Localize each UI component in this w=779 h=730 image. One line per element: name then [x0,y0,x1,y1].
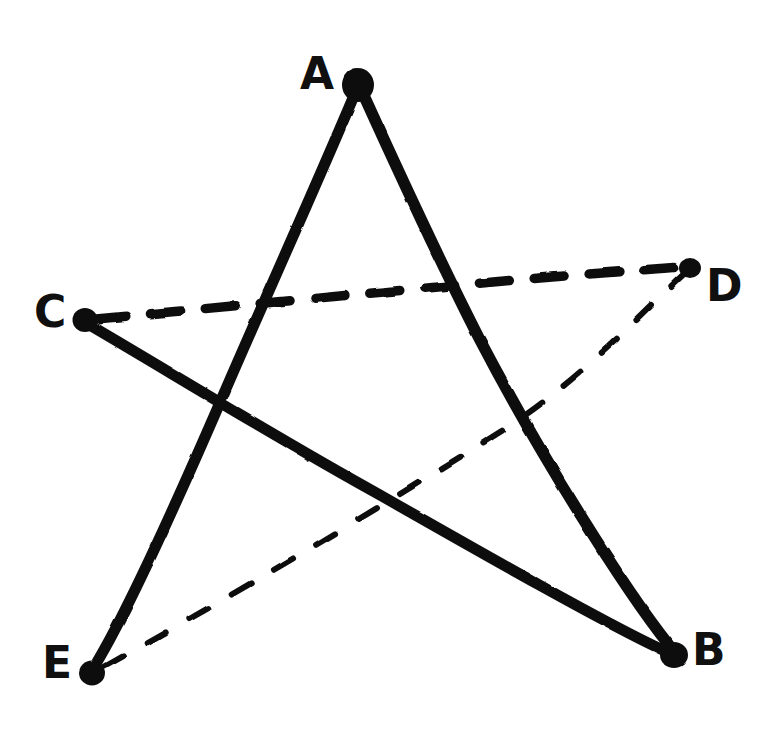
edge-group-dashed [96,267,684,667]
vertex-dot-C[interactable] [73,308,98,332]
diagram-canvas: A B C D E [0,0,779,730]
vertex-label-D: D [706,264,743,308]
vertex-label-C: C [34,290,66,334]
edge-C-D [96,267,682,319]
vertex-dot-D[interactable] [679,258,701,278]
edge-group-solid [93,98,669,662]
vertex-dot-E[interactable] [79,661,105,686]
vertex-dot-B[interactable] [660,642,688,668]
vertex-dot-A[interactable] [342,68,374,102]
vertex-label-B: B [692,628,726,672]
vertex-label-E: E [42,641,72,685]
edge-A-B [365,98,669,645]
sketch-svg [0,0,779,730]
edge-A-E [97,98,353,662]
vertex-label-A: A [300,52,334,96]
